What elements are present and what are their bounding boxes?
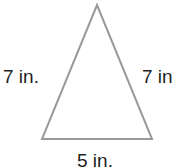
triangle-diagram: 7 in. 7 in 5 in. bbox=[0, 0, 182, 167]
right-side-label: 7 in bbox=[142, 67, 173, 86]
left-side-label: 7 in. bbox=[3, 67, 39, 86]
bottom-side-label: 5 in. bbox=[77, 151, 113, 167]
